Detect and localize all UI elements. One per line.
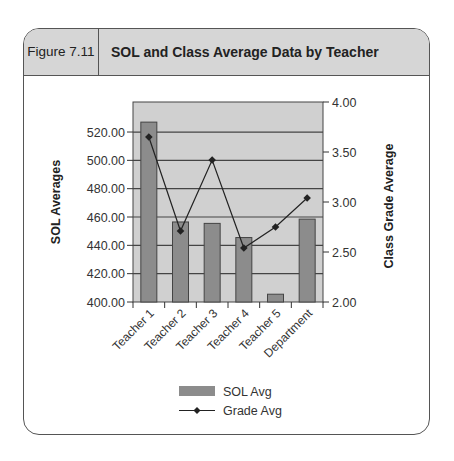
bar-teacher-3 bbox=[204, 223, 220, 302]
right-axis-tick-label: 2.50 bbox=[332, 246, 356, 260]
legend-bar-swatch bbox=[179, 386, 215, 396]
left-axis-tick-label: 460.00 bbox=[87, 211, 125, 225]
left-axis-tick-label: 480.00 bbox=[87, 182, 125, 196]
chart: 400.00420.00440.00460.00480.00500.00520.… bbox=[0, 0, 454, 461]
left-axis-title: SOL Averages bbox=[49, 160, 63, 244]
bar-teacher-1 bbox=[141, 122, 157, 302]
legend-bar-label: SOL Avg bbox=[223, 385, 272, 399]
legend-diamond-icon bbox=[194, 407, 201, 414]
left-axis-tick-label: 400.00 bbox=[87, 296, 125, 310]
left-axis-tick-label: 420.00 bbox=[87, 267, 125, 281]
right-axis-title: Class Grade Average bbox=[382, 144, 396, 269]
bar-department bbox=[299, 219, 315, 302]
left-axis-tick-label: 520.00 bbox=[87, 126, 125, 140]
legend-line-label: Grade Avg bbox=[223, 404, 282, 418]
right-axis-tick-label: 4.00 bbox=[332, 96, 356, 110]
right-axis-tick-label: 2.00 bbox=[332, 296, 356, 310]
bar-teacher-5 bbox=[268, 294, 284, 302]
right-axis-tick-label: 3.50 bbox=[332, 146, 356, 160]
left-axis-tick-label: 440.00 bbox=[87, 239, 125, 253]
left-axis-tick-label: 500.00 bbox=[87, 154, 125, 168]
right-axis-tick-label: 3.00 bbox=[332, 196, 356, 210]
